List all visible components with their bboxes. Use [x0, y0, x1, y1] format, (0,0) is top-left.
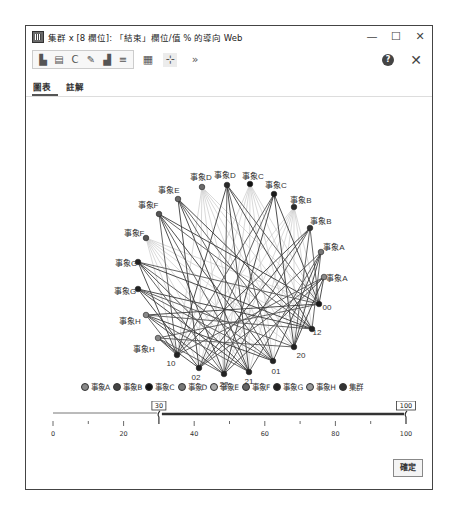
legend-item: 事象E [210, 381, 239, 392]
legend-item: 事象F [242, 381, 270, 392]
slider-value-label: 30 [155, 402, 163, 410]
legend-label: 事象B [123, 381, 142, 392]
node-label: 事象A [323, 242, 345, 252]
graph-node[interactable] [291, 344, 297, 350]
graph-node[interactable] [199, 184, 205, 190]
legend-swatch [178, 383, 186, 391]
node-label: 事象E [158, 185, 179, 195]
legend-item: 事象D [178, 381, 208, 392]
ok-button[interactable]: 確定 [393, 459, 423, 477]
legend-swatch [242, 383, 250, 391]
node-label: 事象D [190, 172, 212, 182]
graph-node[interactable] [174, 352, 180, 358]
node-label: 事象G [114, 286, 136, 296]
graph-edge [178, 199, 273, 361]
graph-node[interactable] [247, 181, 253, 187]
graph-node[interactable] [196, 365, 202, 371]
legend-label: 集群 [349, 381, 363, 392]
node-label: 10 [167, 359, 176, 368]
graph-node[interactable] [224, 182, 230, 188]
legend-swatch [273, 383, 281, 391]
legend-swatch [339, 383, 347, 391]
graph-node[interactable] [307, 225, 313, 231]
legend-label: 事象G [283, 381, 303, 392]
graph-node[interactable] [155, 335, 161, 341]
node-label: 事象B [290, 195, 311, 205]
node-label: 事象F [124, 228, 145, 238]
slider-low-handle[interactable] [158, 411, 160, 424]
legend-item: 事象C [145, 381, 174, 392]
node-label: 事象D [214, 170, 236, 180]
graph-node[interactable] [175, 196, 181, 202]
slider-high-handle[interactable] [405, 411, 407, 424]
dialog-window: 集群 x [8 欄位]: 「結束」欄位/值 % 的導向 Web — ☐ ✕ ▙ … [25, 25, 433, 490]
slider-tick-label: 60 [261, 430, 269, 438]
graph-node[interactable] [221, 371, 227, 377]
legend-item: 事象B [113, 381, 142, 392]
legend-item: 集群 [339, 381, 363, 392]
graph-node[interactable] [270, 358, 276, 364]
legend-label: 事象H [316, 381, 336, 392]
legend-label: 事象F [252, 381, 270, 392]
node-label: 事象A [326, 273, 348, 283]
node-label: 事象H [119, 316, 141, 326]
slider-tick-label: 100 [400, 430, 412, 438]
legend-item: 事象H [306, 381, 336, 392]
legend-label: 事象E [220, 381, 239, 392]
legend-item: 事象G [273, 381, 303, 392]
node-label: 事象G [115, 258, 137, 268]
legend-label: 事象A [91, 381, 110, 392]
node-label: 事象F [138, 200, 159, 210]
node-label: 事象C [265, 180, 287, 190]
legend-swatch [210, 383, 218, 391]
node-label: 事象H [133, 344, 155, 354]
graph-node[interactable] [156, 211, 162, 217]
slider-tick-label: 80 [331, 430, 339, 438]
graph-node[interactable] [246, 369, 252, 375]
slider-value-label: 100 [400, 402, 412, 410]
slider-tick-label: 40 [190, 430, 198, 438]
slider-tick-label: 0 [51, 430, 55, 438]
chart-legend: 事象A事象B事象C事象D事象E事象F事象G事象H集群 [81, 381, 366, 392]
legend-label: 事象C [155, 381, 174, 392]
legend-label: 事象D [188, 381, 208, 392]
node-label: 事象B [310, 216, 331, 226]
legend-swatch [113, 383, 121, 391]
legend-swatch [145, 383, 153, 391]
node-label: 12 [313, 328, 322, 337]
node-label: 事象C [242, 171, 264, 181]
graph-node[interactable] [271, 191, 277, 197]
node-label: 01 [272, 367, 281, 376]
slider-tick-label: 20 [119, 430, 127, 438]
node-label: 00 [323, 303, 332, 312]
graph-node[interactable] [316, 301, 322, 307]
legend-swatch [81, 383, 89, 391]
node-label: 20 [297, 351, 306, 360]
graph-node[interactable] [291, 204, 297, 210]
legend-swatch [306, 383, 314, 391]
graph-node[interactable] [143, 312, 149, 318]
range-slider[interactable]: 02040608010030100 [26, 401, 432, 451]
legend-item: 事象A [81, 381, 110, 392]
